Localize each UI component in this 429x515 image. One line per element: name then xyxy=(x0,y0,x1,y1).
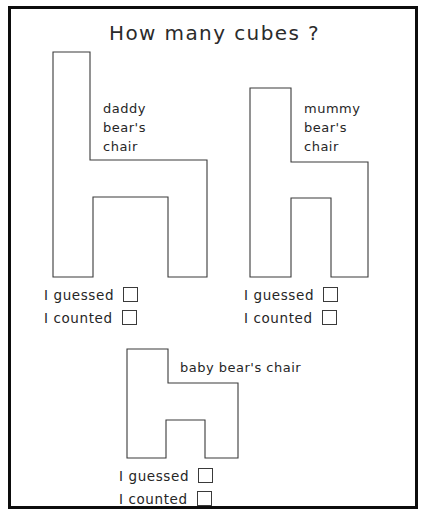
answer-label-guessed-baby: I guessed xyxy=(119,468,189,484)
answer-row-counted-daddy[interactable]: I counted xyxy=(44,307,138,328)
checkbox-counted-daddy[interactable] xyxy=(122,310,137,325)
answer-row-guessed-baby[interactable]: I guessed xyxy=(119,465,213,486)
checkbox-counted-mummy[interactable] xyxy=(322,310,337,325)
answer-row-guessed-mummy[interactable]: I guessed xyxy=(244,284,338,305)
chair-label-mummy: mummy bear's chair xyxy=(304,99,360,156)
answer-block-daddy: I guessed I counted xyxy=(44,284,138,330)
answer-block-baby: I guessed I counted xyxy=(119,465,213,511)
chair-label-baby: baby bear's chair xyxy=(180,358,301,377)
answer-label-counted-baby: I counted xyxy=(119,491,188,507)
answer-label-guessed-mummy: I guessed xyxy=(244,287,314,303)
checkbox-guessed-baby[interactable] xyxy=(198,468,213,483)
worksheet-page: How many cubes ? daddy bear's chair I gu… xyxy=(0,0,429,515)
answer-label-counted-mummy: I counted xyxy=(244,310,313,326)
chair-label-daddy: daddy bear's chair xyxy=(103,99,146,156)
answer-row-guessed-daddy[interactable]: I guessed xyxy=(44,284,138,305)
answer-row-counted-baby[interactable]: I counted xyxy=(119,488,213,509)
page-border-frame xyxy=(8,6,418,509)
answer-label-guessed-daddy: I guessed xyxy=(44,287,114,303)
checkbox-guessed-mummy[interactable] xyxy=(323,287,338,302)
answer-block-mummy: I guessed I counted xyxy=(244,284,338,330)
page-title: How many cubes ? xyxy=(0,21,429,45)
checkbox-counted-baby[interactable] xyxy=(197,491,212,506)
answer-label-counted-daddy: I counted xyxy=(44,310,113,326)
checkbox-guessed-daddy[interactable] xyxy=(123,287,138,302)
answer-row-counted-mummy[interactable]: I counted xyxy=(244,307,338,328)
